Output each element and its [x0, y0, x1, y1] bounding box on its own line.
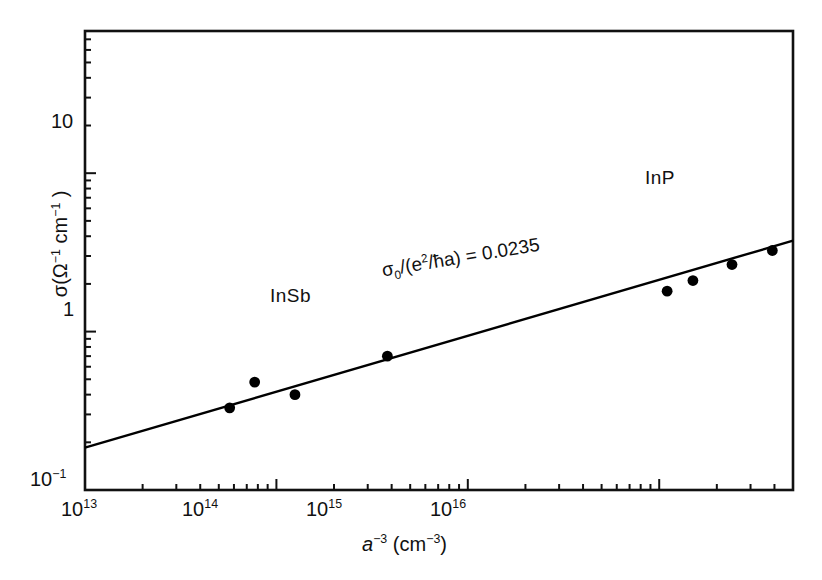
- y-axis-sigma-exp: −1: [48, 249, 62, 263]
- x-axis-base: a: [362, 533, 373, 555]
- x-axis-unit-exp: −3: [426, 532, 440, 546]
- x-tick-exponent: 15: [328, 497, 342, 511]
- y-axis-cm-exp: −1: [48, 203, 62, 217]
- x-tick-label-1e14: 1014: [182, 498, 218, 519]
- y-axis-ticks: [85, 39, 96, 490]
- material-label-inp: InP: [645, 168, 675, 187]
- x-tick-mantissa: 10: [182, 498, 204, 520]
- y-axis-cm: cm: [49, 217, 71, 249]
- y-tick-exponent: −1: [52, 467, 66, 481]
- x-axis-unit-open: (cm: [387, 533, 426, 555]
- x-tick-exponent: 14: [204, 497, 218, 511]
- x-tick-label-1e15: 1015: [306, 498, 342, 519]
- x-axis-unit-close: ): [440, 533, 447, 555]
- material-label-insb: InSb: [270, 286, 311, 305]
- x-tick-mantissa: 10: [61, 498, 83, 520]
- data-point: [688, 275, 699, 286]
- x-axis-base-exp: −3: [373, 532, 387, 546]
- x-axis-title: a−3 (cm−3): [362, 533, 447, 554]
- data-point: [290, 389, 301, 400]
- data-point: [249, 377, 260, 388]
- y-axis-sigma: σ(Ω: [49, 263, 71, 297]
- x-tick-exponent: 13: [83, 497, 97, 511]
- figure-container: 1013 1014 1015 1016 10−1 1 10 σ(Ω−1 cm−1…: [0, 0, 822, 580]
- y-axis-close-paren: ): [49, 190, 71, 202]
- y-tick-label-10: 10: [51, 110, 73, 131]
- x-axis-ticks: [85, 479, 793, 490]
- plot-canvas: [0, 0, 822, 580]
- x-tick-label-1e13: 1013: [61, 498, 97, 519]
- x-tick-mantissa: 10: [306, 498, 328, 520]
- y-tick-mantissa: 10: [51, 110, 73, 132]
- y-axis-title: σ(Ω−1 cm−1 ): [48, 144, 72, 344]
- y-axis-title-text: σ(Ω−1 cm−1 ): [49, 190, 71, 297]
- x-tick-label-1e16: 1016: [430, 498, 466, 519]
- y-tick-label-1e-1: 10−1: [30, 468, 66, 489]
- y-tick-mantissa: 10: [30, 468, 52, 490]
- data-point: [382, 351, 393, 362]
- x-tick-mantissa: 10: [430, 498, 452, 520]
- x-tick-exponent: 16: [452, 497, 466, 511]
- data-point: [662, 286, 673, 297]
- data-point: [767, 245, 778, 256]
- data-point: [224, 402, 235, 413]
- data-point: [727, 259, 738, 270]
